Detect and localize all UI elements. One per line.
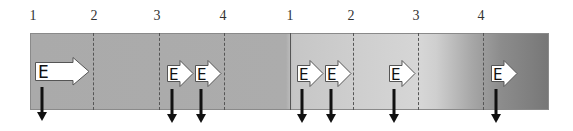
down-arrow-icon xyxy=(37,87,47,125)
beat-label-4: 4 xyxy=(220,9,227,23)
beat-label-1: 1 xyxy=(30,9,37,23)
e-arrow-icon: E xyxy=(325,60,352,87)
down-arrow-icon xyxy=(491,89,501,127)
beat-label-2: 2 xyxy=(91,9,98,23)
beat-divider xyxy=(418,33,419,110)
e-arrow-icon: E xyxy=(167,60,194,87)
down-arrow-icon xyxy=(389,89,399,127)
e-label: E xyxy=(299,66,308,84)
beat-divider xyxy=(353,33,354,110)
beat-label-1-measure-2: 1 xyxy=(287,9,294,23)
beat-label-3: 3 xyxy=(154,9,161,23)
e-arrow-large-icon: E xyxy=(35,57,91,86)
e-arrow-icon: E xyxy=(491,60,518,87)
e-arrow-icon: E xyxy=(297,60,324,87)
e-label: E xyxy=(493,66,502,84)
e-arrow-icon: E xyxy=(389,60,416,87)
down-arrow-icon xyxy=(167,89,177,127)
measure-divider xyxy=(290,33,291,110)
e-label: E xyxy=(169,66,178,84)
beat-label-3-measure-2: 3 xyxy=(413,9,420,23)
beat-label-2-measure-2: 2 xyxy=(348,9,355,23)
down-arrow-icon xyxy=(196,89,206,127)
down-arrow-icon xyxy=(297,89,307,127)
e-label: E xyxy=(327,66,336,84)
e-arrow-icon: E xyxy=(195,60,222,87)
beat-divider xyxy=(93,33,94,110)
beat-divider xyxy=(159,33,160,110)
beat-divider xyxy=(483,33,484,110)
down-arrow-icon xyxy=(326,89,336,127)
beat-label-4-measure-2: 4 xyxy=(478,9,485,23)
e-label: E xyxy=(197,66,206,84)
beat-divider xyxy=(224,33,225,110)
e-label: E xyxy=(38,62,49,82)
e-label: E xyxy=(391,66,400,84)
